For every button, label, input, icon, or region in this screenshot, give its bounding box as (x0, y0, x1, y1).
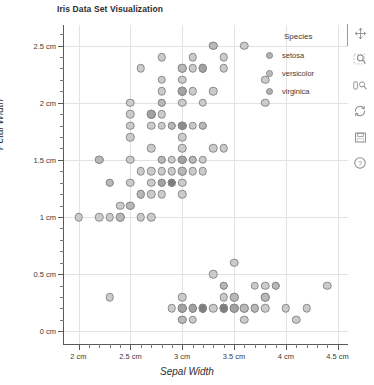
data-point[interactable] (157, 178, 166, 187)
data-point[interactable] (271, 281, 280, 290)
data-point[interactable] (219, 144, 228, 153)
data-point[interactable] (178, 144, 187, 153)
data-point[interactable] (95, 213, 104, 222)
data-point[interactable] (199, 156, 208, 165)
data-point[interactable] (188, 167, 197, 176)
data-point[interactable] (126, 201, 135, 210)
data-point[interactable] (199, 304, 208, 313)
help-icon[interactable]: ? (349, 152, 371, 174)
data-point[interactable] (230, 293, 239, 302)
data-point[interactable] (178, 304, 187, 313)
data-point[interactable] (199, 121, 208, 130)
data-point[interactable] (157, 76, 166, 85)
reset-view-icon[interactable] (349, 100, 371, 122)
zoom-region-icon[interactable] (349, 48, 371, 70)
data-point[interactable] (157, 98, 166, 107)
data-point[interactable] (126, 98, 135, 107)
data-point[interactable] (168, 304, 177, 313)
data-point[interactable] (188, 156, 197, 165)
data-point[interactable] (126, 133, 135, 142)
data-point[interactable] (199, 98, 208, 107)
data-point[interactable] (230, 258, 239, 267)
data-point[interactable] (168, 121, 177, 130)
data-point[interactable] (147, 190, 156, 199)
data-point[interactable] (147, 121, 156, 130)
data-point[interactable] (178, 293, 187, 302)
data-point[interactable] (178, 190, 187, 199)
data-point[interactable] (219, 293, 228, 302)
data-point[interactable] (126, 178, 135, 187)
data-point[interactable] (209, 87, 218, 96)
data-point[interactable] (178, 156, 187, 165)
data-point[interactable] (219, 64, 228, 73)
data-point[interactable] (261, 281, 270, 290)
data-point[interactable] (136, 190, 145, 199)
data-point[interactable] (126, 156, 135, 165)
data-point[interactable] (157, 53, 166, 62)
zoom-axes-icon[interactable] (349, 74, 371, 96)
data-point[interactable] (105, 178, 114, 187)
data-point[interactable] (188, 64, 197, 73)
data-point[interactable] (157, 121, 166, 130)
data-point[interactable] (209, 144, 218, 153)
data-point[interactable] (230, 304, 239, 313)
data-point[interactable] (178, 178, 187, 187)
data-point[interactable] (116, 201, 125, 210)
chart-toolbar[interactable]: ? (347, 22, 373, 178)
data-point[interactable] (157, 190, 166, 199)
data-point[interactable] (188, 121, 197, 130)
data-point[interactable] (292, 316, 301, 325)
data-point[interactable] (302, 304, 311, 313)
data-point[interactable] (250, 304, 259, 313)
data-point[interactable] (126, 121, 135, 130)
data-point[interactable] (147, 110, 156, 119)
data-point[interactable] (178, 121, 187, 130)
data-point[interactable] (147, 213, 156, 222)
data-point[interactable] (126, 110, 135, 119)
data-point[interactable] (178, 76, 187, 85)
data-point[interactable] (157, 156, 166, 165)
data-point[interactable] (168, 167, 177, 176)
data-point[interactable] (157, 87, 166, 96)
data-point[interactable] (74, 213, 83, 222)
data-point[interactable] (157, 110, 166, 119)
data-point[interactable] (188, 304, 197, 313)
data-point[interactable] (240, 41, 249, 50)
data-point[interactable] (178, 87, 187, 96)
data-point[interactable] (147, 178, 156, 187)
data-point[interactable] (168, 178, 177, 187)
data-point[interactable] (219, 281, 228, 290)
data-point[interactable] (178, 316, 187, 325)
data-point[interactable] (209, 270, 218, 279)
data-point[interactable] (250, 281, 259, 290)
data-point[interactable] (147, 167, 156, 176)
legend-item[interactable]: versicolor (262, 66, 346, 81)
save-icon[interactable] (349, 126, 371, 148)
data-point[interactable] (209, 41, 218, 50)
data-point[interactable] (323, 281, 332, 290)
data-point[interactable] (240, 304, 249, 313)
data-point[interactable] (261, 304, 270, 313)
legend-item[interactable]: setosa (262, 48, 346, 63)
data-point[interactable] (240, 316, 249, 325)
data-point[interactable] (261, 293, 270, 302)
data-point[interactable] (95, 156, 104, 165)
data-point[interactable] (188, 53, 197, 62)
data-point[interactable] (199, 167, 208, 176)
data-point[interactable] (105, 213, 114, 222)
data-point[interactable] (282, 304, 291, 313)
data-point[interactable] (178, 64, 187, 73)
data-point[interactable] (209, 304, 218, 313)
data-point[interactable] (188, 87, 197, 96)
data-point[interactable] (219, 53, 228, 62)
legend-item[interactable]: virginica (262, 84, 346, 99)
data-point[interactable] (136, 213, 145, 222)
data-point[interactable] (188, 316, 197, 325)
data-point[interactable] (168, 156, 177, 165)
data-point[interactable] (105, 293, 114, 302)
data-point[interactable] (178, 167, 187, 176)
data-point[interactable] (116, 213, 125, 222)
data-point[interactable] (136, 64, 145, 73)
data-point[interactable] (178, 98, 187, 107)
data-point[interactable] (178, 133, 187, 142)
